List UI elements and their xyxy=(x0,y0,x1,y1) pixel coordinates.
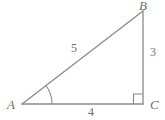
angle-arc-at-a xyxy=(46,85,53,104)
triangle-drawing xyxy=(0,0,165,120)
side-length-label-base-leg: 4 xyxy=(88,106,94,118)
right-angle-square-at-c xyxy=(134,94,144,104)
vertex-label-c: C xyxy=(150,98,159,111)
vertex-label-a: A xyxy=(7,98,15,111)
side-hypotenuse-line xyxy=(22,11,143,104)
vertex-label-b: B xyxy=(139,0,147,12)
side-length-label-hypotenuse: 5 xyxy=(71,42,77,54)
side-length-label-vertical-leg: 3 xyxy=(150,46,156,58)
triangle-figure: A B C 5 3 4 xyxy=(0,0,165,120)
